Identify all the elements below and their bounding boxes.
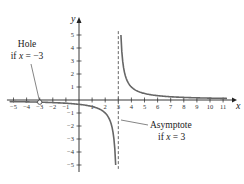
x-tick-label: 7 <box>169 103 173 110</box>
y-axis-arrow <box>77 17 82 23</box>
x-tick-label: 5 <box>143 103 146 110</box>
x-tick-label: 4 <box>130 103 134 110</box>
x-tick-label: −4 <box>23 103 31 110</box>
y-tick-label: 4 <box>71 44 75 51</box>
y-tick-label: −5 <box>67 161 74 168</box>
rational-function-chart: −5−4−3−2−11234567891011−5−4−3−2−112345 x… <box>0 0 244 184</box>
y-axis-label: y <box>70 13 76 24</box>
y-tick-label: 3 <box>71 57 74 64</box>
y-tick-label: −4 <box>67 148 75 155</box>
asymptote-annotation-line2: if x = 3 <box>158 132 186 142</box>
hole-marker <box>38 100 42 104</box>
y-tick-label: −3 <box>67 135 74 142</box>
curve-right-branch <box>121 35 227 98</box>
x-tick-label: −5 <box>10 103 17 110</box>
x-tick-label: 6 <box>156 103 160 110</box>
x-tick-label: 8 <box>182 103 185 110</box>
x-axis-label: x <box>235 100 241 111</box>
asymptote-annotation-line1: Asymptote <box>150 120 192 130</box>
y-tick-label: 2 <box>71 70 74 77</box>
x-tick-label: 10 <box>207 103 214 110</box>
hole-annotation-line1: Hole <box>18 39 36 49</box>
y-tick-label: 1 <box>71 83 74 90</box>
hole-annotation-line2: if x = −3 <box>11 51 44 61</box>
hole-leader-line <box>31 64 39 99</box>
y-tick-label: −1 <box>67 109 74 116</box>
curve-left-branch <box>10 102 116 165</box>
asymptote-leader-line <box>121 120 148 125</box>
y-tick-label: −2 <box>67 122 74 129</box>
x-tick-label: 11 <box>220 103 226 110</box>
y-tick-label: 5 <box>71 31 74 38</box>
x-tick-label: 2 <box>104 103 107 110</box>
x-tick-label: −2 <box>49 103 56 110</box>
x-tick-label: 9 <box>195 103 198 110</box>
